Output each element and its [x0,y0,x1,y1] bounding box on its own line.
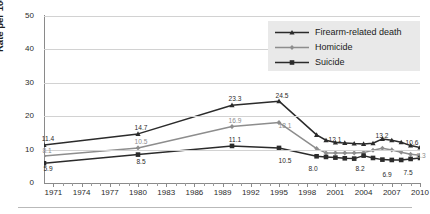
legend-marker-icon [275,56,309,69]
x-tick-1983 [166,183,167,187]
x-tick-label-1971: 1971 [44,189,62,197]
x-tick-1981 [147,183,148,186]
x-tick-2008 [401,183,402,186]
x-tick-1985 [185,183,186,186]
y-axis-title: Rate per 100,000 [0,0,5,52]
x-tick-label-1974: 1974 [73,189,91,197]
x-tick-1987 [204,183,205,186]
data-label-16-9: 16.9 [229,118,242,125]
y-tick-label-20: 20 [8,112,34,120]
data-label-18-1: 18.1 [279,123,292,130]
series-suicide [44,144,420,166]
x-tick-1973 [72,183,73,186]
x-tick-2010 [420,183,421,187]
legend-marker-icon [275,41,309,54]
data-label-5-9: 5.9 [43,166,52,173]
data-label-10-5: 10.5 [135,139,148,146]
data-label-6-9: 6.9 [382,172,391,179]
x-tick-label-1998: 1998 [298,189,316,197]
y-tick-label-50: 50 [8,12,34,20]
gridline-30 [44,83,420,84]
chart-figure: Rate per 100,000 01020304050 19711974197… [0,0,430,214]
y-tick-label-10: 10 [8,146,34,154]
data-label-24-5: 24.5 [276,93,289,100]
x-tick-label-1977: 1977 [101,189,119,197]
x-tick-2009 [411,183,412,186]
x-tick-2005 [373,183,374,186]
x-tick-1988 [213,183,214,186]
x-tick-2000 [326,183,327,186]
x-tick-1996 [288,183,289,186]
data-label-11-1: 11.1 [229,137,241,144]
data-label-8-1: 8.1 [42,148,51,155]
x-tick-1993 [260,183,261,186]
x-tick-1986 [194,183,195,187]
x-tick-2006 [382,183,383,186]
data-label-10-5: 10.5 [279,158,292,165]
x-tick-label-1995: 1995 [270,189,288,197]
x-tick-1974 [82,183,83,187]
x-tick-1979 [129,183,130,186]
legend-label: Suicide [315,57,345,68]
x-tick-1989 [223,183,224,187]
x-tick-1994 [270,183,271,186]
x-tick-2001 [335,183,336,187]
x-tick-1982 [157,183,158,186]
x-tick-2004 [364,183,365,187]
x-tick-1977 [110,183,111,187]
x-tick-1997 [298,183,299,186]
y-tick-label-30: 30 [8,79,34,87]
x-tick-1992 [251,183,252,187]
gridline-50 [44,16,420,17]
x-tick-label-1992: 1992 [242,189,260,197]
x-tick-2003 [354,183,355,186]
data-label-23-3: 23.3 [229,96,242,103]
data-label-8-3: 8.3 [416,153,425,160]
data-label-13-2: 13.2 [376,133,389,140]
legend-label: Homicide [315,42,353,53]
data-label-8-5: 8.5 [136,159,145,166]
x-tick-1978 [119,183,120,186]
x-tick-1980 [138,183,139,187]
x-tick-2007 [392,183,393,187]
data-label-8-0: 8.0 [308,166,317,173]
x-tick-label-2001: 2001 [326,189,344,197]
x-tick-1975 [91,183,92,186]
x-tick-label-1980: 1980 [129,189,147,197]
x-tick-label-2004: 2004 [355,189,373,197]
x-tick-1991 [241,183,242,186]
x-tick-1976 [100,183,101,186]
data-label-7-5: 7.5 [403,170,412,177]
y-tick-label-0: 0 [8,179,34,187]
x-tick-label-2007: 2007 [383,189,401,197]
gridline-10 [44,150,420,151]
chart-legend: Firearm-related deathHomicideSuicide [268,21,420,71]
y-tick-label-40: 40 [8,45,34,53]
x-tick-1995 [279,183,280,187]
x-tick-label-1989: 1989 [214,189,232,197]
data-label-12-1: 12.1 [329,137,342,144]
legend-marker-icon [275,26,309,39]
data-label-11-4: 11.4 [42,136,54,143]
x-tick-1971 [53,183,54,187]
x-tick-label-2010: 2010 [411,189,429,197]
data-label-8-2: 8.2 [355,166,364,173]
footer-rule [18,207,412,208]
x-tick-label-1983: 1983 [157,189,175,197]
legend-label: Firearm-related death [315,27,402,38]
x-tick-1999 [317,183,318,186]
x-tick-1972 [63,183,64,186]
x-tick-2002 [345,183,346,186]
x-tick-label-1986: 1986 [185,189,203,197]
x-tick-1998 [307,183,308,187]
x-tick-1984 [176,183,177,186]
data-label-14-7: 14.7 [135,125,148,132]
data-label-10-6: 10.6 [406,140,419,147]
x-tick-1990 [232,183,233,186]
